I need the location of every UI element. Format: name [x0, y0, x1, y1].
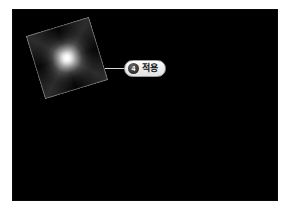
step-number-badge: 4 [128, 63, 139, 74]
step-callout-label: 적용 [142, 63, 158, 74]
gradient-square-fill [26, 17, 108, 99]
page-frame: 4 적용 [0, 0, 291, 213]
step-callout[interactable]: 4 적용 [124, 60, 166, 77]
gradient-square[interactable] [26, 17, 108, 99]
preview-canvas[interactable]: 4 적용 [12, 9, 278, 201]
